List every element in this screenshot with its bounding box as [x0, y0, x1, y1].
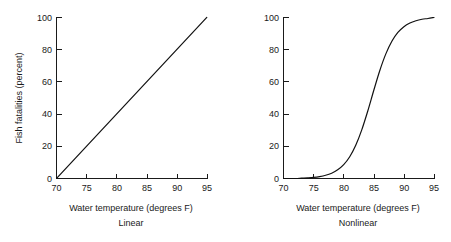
x-tick-labels: 70 75 80 85 90 95	[278, 183, 439, 193]
x-tick-label: 85	[369, 183, 379, 193]
x-axis-title: Water temperature (degrees F)	[69, 203, 193, 213]
y-tick-labels: 100 80 60 40 20 0	[37, 13, 52, 184]
y-tick-label: 40	[42, 109, 52, 119]
y-tick-label: 80	[269, 45, 279, 55]
nonlinear-chart-svg: 100 80 60 40 20 0 70 75 80 85 90 95 Wate…	[225, 0, 451, 242]
x-tick-label: 70	[51, 183, 61, 193]
y-tick-label: 60	[269, 77, 279, 87]
data-series-line-nonlinear	[284, 18, 435, 179]
chart-panel-linear: 100 80 60 40 20 0 70 75 80 85 90 95 Fish…	[0, 0, 226, 242]
x-tick-label: 95	[429, 183, 439, 193]
x-tick-marks	[57, 174, 208, 179]
panel-caption: Linear	[118, 218, 143, 228]
figure-two-panel-charts: 100 80 60 40 20 0 70 75 80 85 90 95 Fish…	[0, 0, 451, 242]
data-series-line-linear	[57, 17, 207, 178]
x-tick-label: 95	[202, 183, 212, 193]
y-tick-label: 0	[47, 174, 52, 184]
x-tick-labels: 70 75 80 85 90 95	[51, 183, 212, 193]
x-tick-label: 75	[82, 183, 92, 193]
y-tick-label: 60	[42, 77, 52, 87]
x-tick-label: 75	[309, 183, 319, 193]
x-tick-label: 90	[399, 183, 409, 193]
x-tick-label: 90	[172, 183, 182, 193]
y-tick-label: 0	[274, 174, 279, 184]
x-tick-label: 80	[112, 183, 122, 193]
y-tick-labels: 100 80 60 40 20 0	[264, 13, 279, 184]
x-axis-title: Water temperature (degrees F)	[296, 203, 420, 213]
y-tick-label: 40	[269, 109, 279, 119]
y-tick-label: 20	[42, 141, 52, 151]
y-axis-title: Fish fatalities (percent)	[14, 52, 24, 143]
chart-panel-nonlinear: 100 80 60 40 20 0 70 75 80 85 90 95 Wate…	[225, 0, 451, 242]
x-tick-label: 80	[339, 183, 349, 193]
y-tick-label: 20	[269, 141, 279, 151]
y-tick-marks	[57, 18, 62, 179]
linear-chart-svg: 100 80 60 40 20 0 70 75 80 85 90 95 Fish…	[0, 0, 226, 242]
y-tick-marks	[284, 18, 289, 179]
x-tick-label: 85	[142, 183, 152, 193]
x-tick-label: 70	[278, 183, 288, 193]
y-tick-label: 100	[37, 13, 52, 23]
y-tick-label: 80	[42, 45, 52, 55]
panel-caption: Nonlinear	[339, 218, 378, 228]
y-tick-label: 100	[264, 13, 279, 23]
